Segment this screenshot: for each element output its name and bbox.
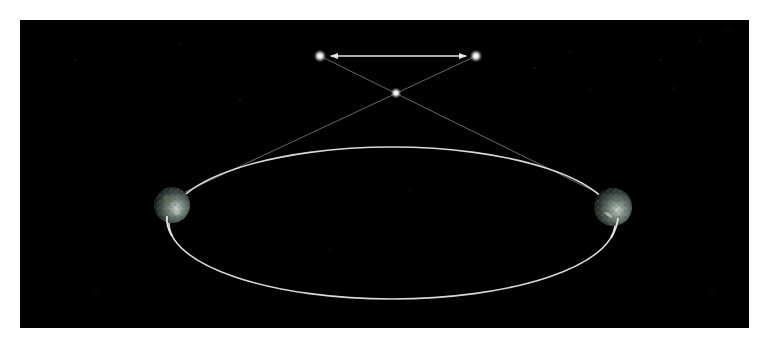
parallax-diagram — [0, 0, 772, 349]
earth-left — [154, 187, 190, 223]
apparent-star-right-icon — [469, 49, 483, 63]
diagram-svg — [0, 0, 772, 349]
earth-orbit — [169, 147, 615, 299]
apparent-star-left-icon — [313, 49, 327, 63]
near-star-icon — [390, 87, 402, 99]
earth-right — [594, 188, 632, 226]
background-stars — [74, 30, 728, 301]
sight-line-from-right-earth — [320, 56, 600, 194]
